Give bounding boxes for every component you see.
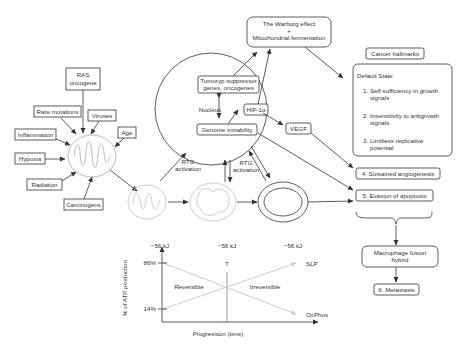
svg-text:Inflammation: Inflammation	[18, 131, 54, 138]
svg-text:−56 kJ: −56 kJ	[151, 242, 169, 249]
cancer-hallmarks-title: Cancer hallmarks	[366, 48, 424, 59]
arrow-nucleus-to-apoptosis	[258, 133, 353, 190]
svg-text:Nucleus: Nucleus	[199, 106, 221, 113]
svg-text:Cancer hallmarks: Cancer hallmarks	[371, 50, 419, 57]
svg-text:Age: Age	[121, 129, 133, 136]
svg-text:Default State: Default State	[357, 72, 393, 79]
factor-age: Age	[118, 127, 136, 138]
vegf-box: VEGF	[286, 123, 311, 134]
svg-text:2. Insensitivity to antigrowth: 2. Insensitivity to antigrowth	[363, 112, 440, 119]
svg-text:−56 kJ: −56 kJ	[218, 242, 236, 249]
svg-text:Macrophage fusion: Macrophage fusion	[374, 249, 427, 256]
arrow-to-apoptosis	[308, 201, 353, 202]
svg-text:genes, oncogenes: genes, oncogenes	[203, 84, 254, 91]
arrow-to-mito-2	[110, 170, 137, 191]
factor-rare-mutations: Rare mutations	[34, 106, 81, 117]
svg-text:Rare mutations: Rare mutations	[37, 108, 79, 115]
svg-text:−56 kJ: −56 kJ	[284, 242, 302, 249]
default-state-box: Default State 1. Self-sufficiency in gro…	[353, 64, 452, 156]
hif-1a: HIF-1α	[244, 104, 268, 115]
svg-text:% of ATP production: % of ATP production	[121, 260, 128, 316]
svg-text:5. Evasion of apoptosis: 5. Evasion of apoptosis	[363, 192, 427, 199]
brace	[356, 212, 432, 224]
mitochondrion-stage-2	[128, 185, 166, 219]
svg-text:Tumoryp suppressor: Tumoryp suppressor	[200, 77, 257, 84]
mitochondrion-stage-4	[258, 182, 308, 222]
factor-radiation: Radiation	[27, 179, 62, 190]
evasion-of-apoptosis: 5. Evasion of apoptosis	[356, 190, 433, 201]
svg-text:RTG: RTG	[182, 158, 195, 165]
svg-text:86%: 86%	[144, 259, 157, 266]
svg-text:hybrid: hybrid	[392, 256, 409, 263]
svg-text:oncogene: oncogene	[69, 79, 97, 86]
svg-text:activation: activation	[233, 166, 260, 173]
genome-instability: Genome instability	[197, 124, 257, 135]
mitochondrion-stage-3	[190, 183, 236, 221]
svg-text:Carcinogens: Carcinogens	[66, 201, 101, 208]
arrow-nucleus-to-mito	[251, 146, 270, 178]
factor-viruses: Viruses	[88, 110, 116, 121]
sustained-angiogenesis: 4. Sustained angiogenesis	[356, 168, 440, 179]
svg-text:RAS: RAS	[77, 71, 90, 78]
arrow-genome-to-hif	[228, 110, 238, 124]
svg-text:OxPhos: OxPhos	[306, 311, 328, 318]
factor-hypoxia: Hypoxia	[15, 153, 45, 164]
svg-text:VEGF: VEGF	[290, 125, 307, 132]
svg-text:T: T	[225, 260, 229, 267]
svg-text:Progression (time): Progression (time)	[193, 330, 244, 337]
svg-text:The Warburg effect: The Warburg effect	[263, 20, 316, 27]
svg-text:signals: signals	[370, 94, 389, 101]
svg-text:1. Self-sufficiency in growth: 1. Self-sufficiency in growth	[363, 87, 439, 94]
macrophage-fusion-hybrid: Macrophage fusion hybrid	[362, 246, 438, 267]
svg-text:RTG: RTG	[240, 159, 253, 166]
svg-text:Irreversible: Irreversible	[250, 283, 281, 290]
svg-text:activation: activation	[175, 165, 202, 172]
factor-inflammation: Inflammation	[15, 129, 56, 140]
svg-text:6. Metastasis: 6. Metastasis	[378, 286, 414, 293]
normal-mitochondrion	[68, 135, 116, 177]
metastasis: 6. Metastasis	[374, 284, 419, 295]
svg-text:+: +	[287, 27, 291, 34]
svg-text:SLP: SLP	[306, 260, 318, 267]
svg-text:Mitochondrial fermentation: Mitochondrial fermentation	[253, 34, 326, 41]
warburg-effect-box: The Warburg effect + Mitochondrial ferme…	[247, 17, 331, 47]
svg-text:HIF-1α: HIF-1α	[246, 106, 265, 113]
diagram-canvas: RAS oncogene Rare mutations Viruses Infl…	[0, 0, 459, 348]
svg-text:potential: potential	[370, 144, 393, 151]
svg-text:3. Limitless replicative: 3. Limitless replicative	[363, 137, 424, 144]
svg-text:14%: 14%	[144, 305, 157, 312]
atp-graph: −56 kJ −56 kJ −56 kJ 86% 14% T Reversibl…	[121, 242, 328, 337]
svg-text:Hypoxia: Hypoxia	[19, 155, 42, 162]
svg-text:Viruses: Viruses	[92, 112, 113, 119]
svg-text:Genome instability: Genome instability	[202, 126, 254, 133]
arrow-vegf-to-angiogenesis	[311, 133, 353, 168]
factor-carcinogens: Carcinogens	[64, 199, 103, 210]
tumor-suppressor-genes: Tumoryp suppressor genes, oncogenes	[198, 76, 259, 93]
factor-ras-oncogene: RAS oncogene	[66, 68, 100, 90]
svg-text:Radiation: Radiation	[31, 181, 58, 188]
arrow-warburg-to-hallmarks	[305, 47, 343, 78]
svg-text:4. Sustained angiogenesis: 4. Sustained angiogenesis	[362, 170, 435, 177]
arrow-hif-to-warburg	[258, 49, 270, 104]
svg-text:Reversible: Reversible	[174, 283, 204, 290]
rtg-activation-right: RTG activation	[233, 159, 260, 173]
svg-text:signals: signals	[370, 119, 389, 126]
